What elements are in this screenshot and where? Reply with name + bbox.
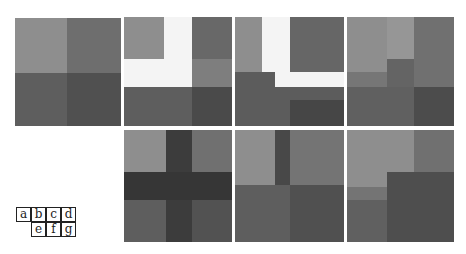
legend-cell-c: c [46, 207, 61, 222]
gray-region [124, 172, 232, 200]
panel-f [235, 130, 344, 242]
gray-region [290, 185, 344, 242]
gray-region [275, 130, 290, 185]
gray-region [192, 87, 232, 126]
gray-region [124, 17, 164, 59]
gray-region [414, 130, 454, 172]
gray-region [192, 130, 232, 172]
legend-cell-g: g [61, 222, 76, 237]
legend-cell-d: d [61, 207, 76, 222]
gray-region [414, 87, 454, 126]
gray-region [347, 72, 387, 87]
gray-region [124, 200, 166, 242]
panel-b [124, 17, 232, 126]
gray-region [290, 130, 344, 185]
gray-region [290, 100, 344, 126]
gray-region [67, 18, 121, 73]
gray-region [235, 17, 262, 72]
gray-region [15, 18, 67, 73]
legend-cell-b: b [31, 207, 46, 222]
gray-region [387, 172, 454, 242]
gray-region [347, 87, 414, 126]
panel-d [347, 17, 454, 126]
gray-region [124, 87, 192, 126]
legend-cell-a: a [16, 207, 31, 222]
gray-region [387, 59, 414, 87]
legend-cell-e: e [31, 222, 46, 237]
gray-region [347, 187, 387, 200]
gray-region [235, 185, 290, 242]
gray-region [387, 17, 414, 59]
gray-region [235, 130, 275, 185]
panel-g [347, 130, 454, 242]
panel-e [124, 130, 232, 242]
gray-region [347, 200, 387, 242]
legend-cell-f: f [46, 222, 61, 237]
gray-region [124, 130, 166, 172]
panel-c [235, 17, 344, 126]
gray-region [414, 17, 454, 87]
gray-region [290, 17, 344, 72]
gray-region [15, 73, 67, 126]
gray-region [192, 17, 232, 59]
gray-region [192, 200, 232, 242]
panel-a [15, 18, 121, 126]
gray-region [67, 73, 121, 126]
gray-region [192, 59, 232, 87]
